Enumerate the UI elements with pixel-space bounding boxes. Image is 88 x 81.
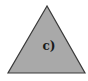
figure-label: c) — [36, 39, 62, 53]
